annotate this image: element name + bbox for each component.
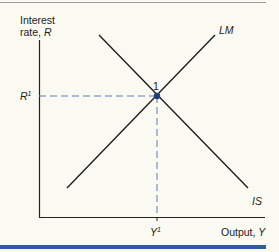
lm-label: LM: [219, 24, 234, 36]
is-curve: [99, 35, 248, 188]
y1-label: Y1: [150, 226, 161, 238]
y-axis-label-prefix: rate,: [20, 26, 44, 38]
y-axis-var: R: [44, 26, 52, 38]
x-axis-label: Output, Y: [221, 226, 265, 238]
lm-curve: [67, 35, 215, 188]
is-lm-diagram: Interest rate, R R1 1 LM IS Y1 Output, Y: [0, 0, 279, 252]
r1-sup: 1: [28, 90, 32, 97]
is-label: IS: [252, 195, 262, 207]
y1-sup: 1: [157, 226, 161, 233]
equilibrium-label: 1: [153, 80, 159, 92]
y-axis-label: Interest rate, R: [20, 14, 55, 38]
y-axis-label-line1: Interest: [20, 14, 55, 26]
equilibrium-point: [154, 93, 160, 99]
r1-label: R1: [20, 90, 32, 102]
x-axis-var: Y: [258, 226, 265, 238]
bottom-bar: [0, 245, 266, 249]
